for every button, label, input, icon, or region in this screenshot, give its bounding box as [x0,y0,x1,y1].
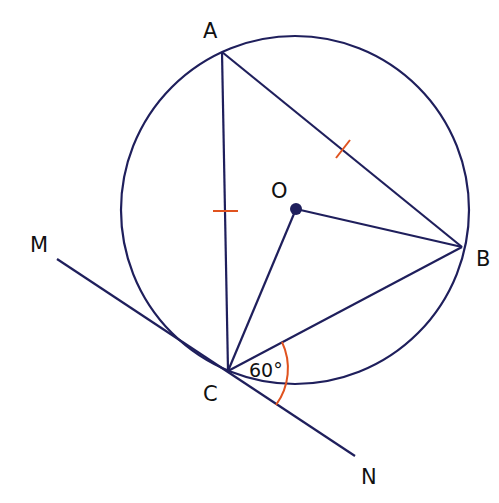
segment-cb [228,247,462,371]
geometry-diagram: A O B M C N 60° [0,0,499,503]
angle-label-60: 60° [249,359,283,381]
label-a: A [203,19,218,43]
label-c: C [203,382,218,406]
label-n: N [361,465,377,489]
label-m: M [30,233,48,257]
tangent-line-mn [57,259,355,456]
center-point-o [290,203,302,215]
radius-oc [228,209,296,371]
label-o: O [271,179,288,203]
label-b: B [476,247,490,271]
